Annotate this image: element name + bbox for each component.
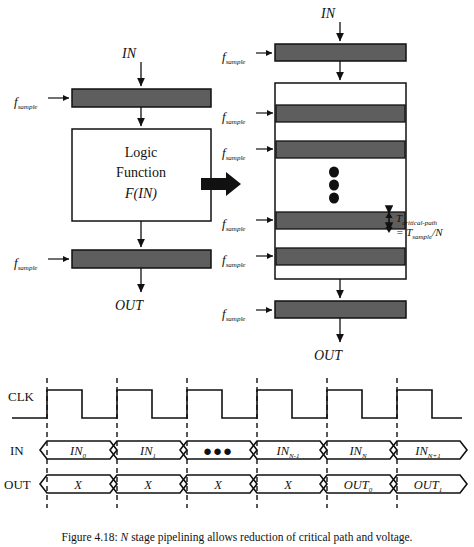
logic-line-3: F(IN) xyxy=(124,186,157,202)
left-clock-label-top: fsample xyxy=(14,94,37,111)
left-input-label: IN xyxy=(121,46,137,61)
right-clock-label-1: fsample xyxy=(222,109,245,126)
figure-root: IN fsample Logic Function F(IN) fsample xyxy=(0,0,474,547)
in-bus-value-1: IN1 xyxy=(139,444,156,460)
left-register-top xyxy=(72,89,211,107)
left-output-label: OUT xyxy=(115,298,144,313)
timing-diagram: CLK IN IN0 IN1 ●●● INN-1 INN INN+1 xyxy=(4,378,467,508)
pipeline-register-1 xyxy=(276,105,405,122)
right-clock-label-5: fsample xyxy=(222,306,245,323)
timing-row-label-out: OUT xyxy=(4,477,31,492)
right-diagram: IN fsample fsample fsample xyxy=(222,6,443,363)
out-bus-values: X X X X OUT0 OUT1 xyxy=(73,478,442,494)
pipeline-register-3 xyxy=(276,212,405,229)
out-bus-value-4: OUT0 xyxy=(344,478,373,494)
caption-prefix: Figure 4.18: xyxy=(61,531,117,543)
right-register-input xyxy=(275,44,406,61)
out-bus-value-0: X xyxy=(73,478,83,492)
right-clock-label-0: fsample xyxy=(222,49,245,66)
in-bus-value-0: IN0 xyxy=(69,444,87,460)
out-bus-value-3: X xyxy=(283,478,293,492)
out-bus-row xyxy=(40,475,467,493)
figure-svg: IN fsample Logic Function F(IN) fsample xyxy=(0,0,474,512)
right-clock-label-4: fsample xyxy=(222,252,245,269)
caption-rest: stage pipelining allows reduction of cri… xyxy=(131,531,412,543)
out-bus-value-5: OUT1 xyxy=(414,478,443,494)
logic-line-1: Logic xyxy=(125,145,158,160)
in-bus-value-2: ●●● xyxy=(203,443,233,459)
timing-row-label-in: IN xyxy=(10,443,24,458)
clk-waveform xyxy=(12,390,462,418)
caption-italic-n: N xyxy=(121,531,129,543)
right-clock-label-3: fsample xyxy=(222,216,245,233)
right-input-label: IN xyxy=(320,6,336,21)
left-diagram: IN fsample Logic Function F(IN) fsample xyxy=(14,46,211,313)
right-register-output xyxy=(275,301,406,318)
out-bus-value-1: X xyxy=(143,478,153,492)
pipeline-register-4 xyxy=(276,248,405,265)
figure-caption: Figure 4.18: N stage pipelining allows r… xyxy=(0,531,474,543)
in-bus-value-3: INN-1 xyxy=(276,444,300,460)
pipeline-register-2 xyxy=(276,141,405,158)
timing-row-label-clk: CLK xyxy=(8,389,35,404)
right-clock-label-2: fsample xyxy=(222,145,245,162)
left-clock-label-bottom: fsample xyxy=(14,255,37,272)
pipeline-ellipsis xyxy=(329,167,339,204)
out-bus-value-2: X xyxy=(213,478,223,492)
in-bus-value-5: INN+1 xyxy=(414,444,440,460)
in-bus-row xyxy=(40,441,467,459)
right-output-label: OUT xyxy=(314,348,343,363)
logic-line-2: Function xyxy=(116,165,166,180)
left-register-bottom xyxy=(72,250,211,268)
in-bus-value-4: INN xyxy=(348,444,367,460)
